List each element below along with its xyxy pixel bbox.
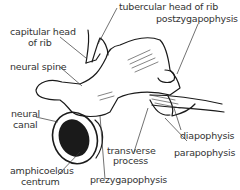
label-neural-canal-line2: canal [13,120,38,130]
label-capitular-head-line2: of rib [28,38,52,48]
label-neural-canal: neural [11,109,40,119]
label-tubercular-head: tubercular head of rib [119,2,218,12]
label-amphicoelous-centrum-line2: centrum [21,177,60,187]
label-parapophysis: parapophysis [174,148,235,158]
label-neural-spine: neural spine [10,62,66,72]
label-amphicoelous-centrum: amphicoelous [10,166,74,176]
label-postzygapophysis: postzygapophysis [156,14,238,24]
label-capitular-head: capitular head [10,27,76,37]
label-transverse-process-line2: process [113,156,148,166]
label-prezygapophysis: prezygapophysis [90,175,167,185]
label-diapophysis: diapophysis [180,131,234,141]
